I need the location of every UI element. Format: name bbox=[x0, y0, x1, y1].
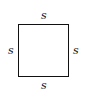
top-side-label: s bbox=[41, 10, 47, 21]
bottom-side-label: s bbox=[41, 80, 47, 91]
right-side-label: s bbox=[73, 45, 79, 56]
square-shape bbox=[18, 24, 69, 77]
left-side-label: s bbox=[8, 45, 14, 56]
